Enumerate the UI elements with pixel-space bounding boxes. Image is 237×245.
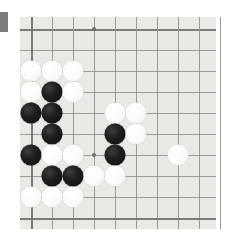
left-edge-marker bbox=[0, 12, 8, 32]
goban-surface[interactable] bbox=[20, 17, 216, 229]
black-stone[interactable] bbox=[63, 166, 84, 187]
go-board-scene bbox=[0, 0, 237, 245]
white-stone[interactable] bbox=[63, 82, 84, 103]
black-stone[interactable] bbox=[105, 145, 126, 166]
white-stone[interactable] bbox=[63, 187, 84, 208]
white-stone[interactable] bbox=[84, 166, 105, 187]
white-stone[interactable] bbox=[42, 187, 63, 208]
black-stone[interactable] bbox=[21, 145, 42, 166]
white-stone[interactable] bbox=[42, 61, 63, 82]
goban-stone-layer bbox=[20, 17, 216, 229]
black-stone[interactable] bbox=[21, 103, 42, 124]
white-stone[interactable] bbox=[105, 166, 126, 187]
white-stone[interactable] bbox=[21, 187, 42, 208]
white-stone[interactable] bbox=[42, 145, 63, 166]
white-stone[interactable] bbox=[63, 145, 84, 166]
white-stone[interactable] bbox=[126, 124, 147, 145]
white-stone[interactable] bbox=[21, 82, 42, 103]
white-stone[interactable] bbox=[21, 61, 42, 82]
white-stone[interactable] bbox=[63, 61, 84, 82]
white-stone[interactable] bbox=[126, 103, 147, 124]
black-stone[interactable] bbox=[42, 82, 63, 103]
black-stone[interactable] bbox=[42, 124, 63, 145]
white-stone[interactable] bbox=[168, 145, 189, 166]
white-stone[interactable] bbox=[105, 103, 126, 124]
black-stone[interactable] bbox=[42, 103, 63, 124]
black-stone[interactable] bbox=[105, 124, 126, 145]
grid-line-vertical bbox=[220, 17, 221, 229]
black-stone[interactable] bbox=[42, 166, 63, 187]
